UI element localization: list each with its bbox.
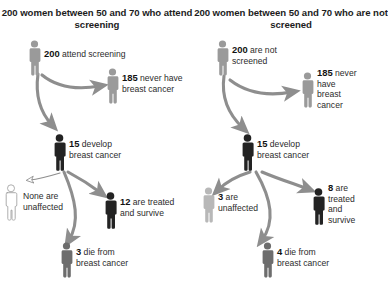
node-not-screened: 200 are not screened: [216, 40, 277, 81]
person-figure-gray-icon: [28, 40, 41, 81]
node-not-screened-caption: 200 are not screened: [229, 40, 277, 66]
node-die-from-cancer-caption: 4 die from breast cancer: [274, 242, 329, 268]
node-treated-survive-number: 12: [120, 196, 130, 207]
node-die-from-cancer: 3 die from breast cancer: [60, 242, 128, 283]
node-unaffected-caption: 3 are unaffected: [215, 187, 258, 213]
node-develop-cancer-caption: 15 develop breast cancer: [66, 134, 121, 160]
node-never-have-cancer: 185 never have breast cancer: [106, 68, 183, 109]
node-develop-cancer: 15 develop breast cancer: [53, 134, 121, 176]
node-none-unaffected: None are unaffected: [4, 184, 63, 226]
panel-attend-screening: 200 women between 50 and 70 who attend s…: [0, 0, 194, 285]
node-not-screened-number: 200: [232, 44, 248, 55]
node-treated-survive: 12 are treated and survive: [104, 192, 174, 234]
person-figure-lightgray-icon: [202, 187, 215, 228]
node-never-have-cancer-number: 185: [317, 67, 333, 78]
person-figure-gray-icon: [301, 60, 314, 113]
person-figure-dark-icon: [53, 134, 66, 176]
node-never-have-cancer-caption: 185 never have breast cancer: [119, 68, 183, 94]
node-treated-survive-caption: 12 are treated and survive: [117, 192, 174, 218]
node-attend-screening-caption: 200 attend screening: [41, 40, 126, 60]
node-develop-cancer: 15 develop breast cancer: [241, 134, 309, 176]
person-figure-gray-icon: [106, 68, 119, 109]
node-die-from-cancer-label: die from breast cancer: [76, 247, 128, 268]
person-figure-middark-icon: [60, 242, 73, 283]
node-never-have-cancer: 185 never have breast cancer: [301, 60, 357, 113]
node-treated-survive: 8 are treated and survive: [312, 183, 355, 230]
node-develop-cancer-number: 15: [69, 138, 79, 149]
node-develop-cancer-caption: 15 develop breast cancer: [254, 134, 309, 160]
node-unaffected: 3 are unaffected: [202, 187, 258, 228]
node-never-have-cancer-caption: 185 never have breast cancer: [314, 60, 357, 110]
node-unaffected-label: are unaffected: [218, 192, 258, 213]
node-none-unaffected-caption: None are unaffected: [18, 184, 63, 212]
person-figure-dark-icon: [104, 192, 117, 234]
node-die-from-cancer-label: die from breast cancer: [277, 247, 329, 268]
node-die-from-cancer-caption: 3 die from breast cancer: [73, 242, 128, 268]
node-treated-survive-caption: 8 are treated and survive: [325, 183, 355, 225]
person-figure-dark-icon: [241, 134, 254, 176]
node-develop-cancer-number: 15: [257, 138, 267, 149]
node-attend-screening-label: attend screening: [60, 49, 126, 59]
panel-not-screened: 200 women between 50 and 70 who are not …: [194, 0, 388, 285]
person-figure-dark-icon: [312, 183, 325, 230]
person-figure-gray-icon: [216, 40, 229, 81]
node-treated-survive-label: are treated and survive: [328, 183, 355, 225]
node-attend-screening-number: 200: [44, 48, 60, 59]
person-figure-middark-icon: [261, 242, 274, 283]
node-die-from-cancer: 4 die from breast cancer: [261, 242, 329, 283]
right-panel-heading: 200 women between 50 and 70 who are not …: [194, 7, 388, 31]
person-figure-outline-icon: [4, 184, 18, 226]
node-never-have-cancer-number: 185: [122, 72, 138, 83]
left-panel-heading: 200 women between 50 and 70 who attend s…: [0, 7, 194, 31]
